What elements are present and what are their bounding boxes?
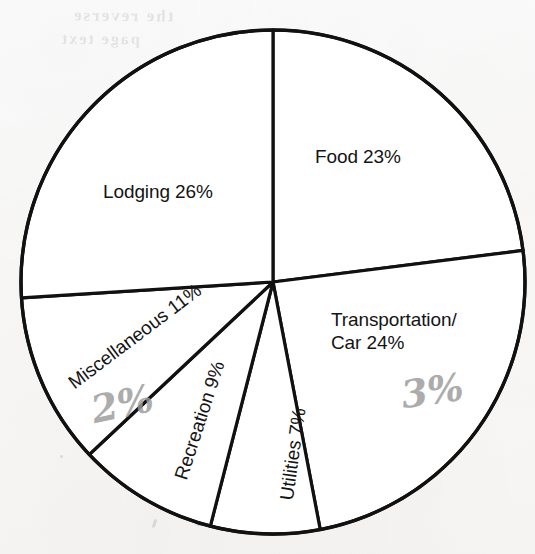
pie-label-transportation-car-line-one: Transportation/ <box>331 309 491 332</box>
pie-label-transportation-car-line-two: Car 24% <box>331 332 491 355</box>
pie-label-lodging: Lodging 26% <box>103 181 213 203</box>
pie-chart-graphic <box>0 0 535 554</box>
pie-slices <box>21 30 525 534</box>
pie-slice-lodging[interactable] <box>21 30 273 298</box>
pie-chart-page: the reverse page text Food 23% Lodging 2… <box>0 0 535 554</box>
pie-label-transportation-car: Transportation/ Car 24% <box>331 309 491 355</box>
pie-label-food: Food 23% <box>315 146 401 168</box>
handwritten-annotation-transportation: 3% <box>398 364 466 417</box>
